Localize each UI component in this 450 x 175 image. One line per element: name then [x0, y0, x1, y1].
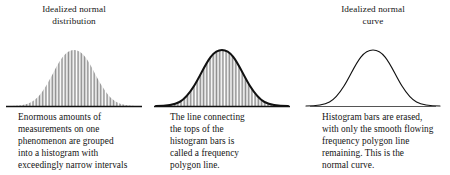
- caption-line: The line connecting: [170, 111, 245, 123]
- caption-line: remaining. This is the: [322, 147, 433, 159]
- panel-1-caption: Enormous amounts of measurements on one …: [18, 111, 127, 171]
- caption-line: normal curve.: [322, 159, 433, 171]
- caption-line: called a frequency: [170, 147, 245, 159]
- caption-line: measurements on one: [18, 123, 127, 135]
- panel-3-plot-curve: [296, 40, 450, 110]
- panel-frequency-polygon: The line connecting the tops of the hist…: [148, 0, 296, 175]
- caption-line: into a histogram with: [18, 147, 127, 159]
- caption-line: frequency polygon line: [322, 135, 433, 147]
- panel-idealized-normal-curve: Idealized normal curve Histogram bars ar…: [296, 0, 450, 175]
- panel-3-title-line-2: curve: [296, 16, 450, 28]
- panel-1-title-line-1: Idealized normal: [0, 4, 148, 16]
- caption-line: with only the smooth flowing: [322, 123, 433, 135]
- panel-2-plot-histogram-with-curve: [148, 40, 296, 110]
- panel-3-title: Idealized normal curve: [296, 4, 450, 27]
- panel-1-title: Idealized normal distribution: [0, 4, 148, 27]
- panel-1-title-line-2: distribution: [0, 16, 148, 28]
- caption-line: exceedingly narrow intervals: [18, 159, 127, 171]
- caption-line: Histogram bars are erased,: [322, 111, 433, 123]
- caption-line: phenomenon are grouped: [18, 135, 127, 147]
- caption-line: polygon line.: [170, 159, 245, 171]
- caption-line: Enormous amounts of: [18, 111, 127, 123]
- normal-curve-line: [306, 50, 440, 106]
- normal-curve-svg: [296, 40, 450, 110]
- panel-3-caption: Histogram bars are erased, with only the…: [322, 111, 433, 171]
- panel-idealized-normal-distribution: Idealized normal distribution: [0, 0, 148, 175]
- histogram-with-polygon-svg: [148, 40, 296, 110]
- histogram-svg: [0, 40, 148, 110]
- histogram-bars: [0, 40, 148, 110]
- caption-line: the tops of the: [170, 123, 245, 135]
- normal-distribution-figure: Idealized normal distribution: [0, 0, 450, 175]
- panel-3-title-line-1: Idealized normal: [296, 4, 450, 16]
- panel-1-plot-histogram: [0, 40, 148, 110]
- panel-2-caption: The line connecting the tops of the hist…: [170, 111, 245, 171]
- caption-line: histogram bars is: [170, 135, 245, 147]
